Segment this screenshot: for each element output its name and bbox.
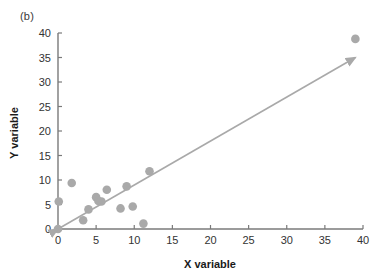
x-tick-label: 35 [319, 234, 331, 246]
x-tick-label: 0 [55, 234, 61, 246]
data-point [54, 197, 63, 206]
x-tick-label: 25 [243, 234, 255, 246]
data-point [128, 202, 137, 211]
x-tick-label: 20 [204, 234, 216, 246]
data-point [351, 35, 360, 44]
y-tick-label: 15 [39, 150, 51, 162]
y-tick-label: 40 [39, 27, 51, 39]
y-tick-label: 35 [39, 52, 51, 64]
data-point [67, 179, 76, 188]
data-point [79, 216, 88, 225]
data-point [139, 219, 148, 228]
y-tick-label: 5 [45, 199, 51, 211]
chart-canvas: 05101520253035400510152025303540 X varia… [0, 0, 377, 278]
x-tick-label: 5 [93, 234, 99, 246]
y-tick-label: 25 [39, 101, 51, 113]
trend-line [58, 58, 355, 230]
y-tick-label: 0 [45, 223, 51, 235]
x-tick-label: 15 [166, 234, 178, 246]
y-tick-label: 10 [39, 174, 51, 186]
x-axis [58, 225, 363, 229]
y-tick-label: 30 [39, 76, 51, 88]
data-points [54, 35, 360, 234]
trend-arrow [58, 58, 355, 230]
scatter-plot-figure: (b) 05101520253035400510152025303540 X v… [0, 0, 377, 278]
data-point [103, 186, 112, 195]
x-tick-label: 10 [128, 234, 140, 246]
y-tick-label: 20 [39, 125, 51, 137]
y-axis-title: Y variable [8, 107, 20, 159]
x-axis-title: X variable [184, 258, 236, 270]
x-tick-label: 30 [281, 234, 293, 246]
x-tick-label: 40 [357, 234, 369, 246]
data-point [116, 204, 125, 213]
